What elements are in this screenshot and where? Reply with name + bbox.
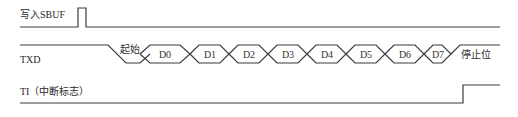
signal-label-sbuf: 写入SBUF (20, 9, 65, 20)
bit-label-d3: D3 (276, 49, 300, 60)
ti-waveform (20, 85, 500, 103)
bit-label-d2: D2 (237, 49, 261, 60)
bit-label-d5: D5 (354, 49, 378, 60)
signal-label-txd: TXD (20, 54, 41, 65)
bit-label-d6: D6 (393, 49, 417, 60)
stop-bit-label: 停止位 (461, 49, 491, 60)
start-bit-label: 起始 (120, 44, 140, 55)
bit-label-d0: D0 (153, 49, 177, 60)
sbuf-waveform (20, 8, 500, 27)
bit-label-d7: D7 (426, 49, 450, 60)
signal-label-ti: TI（中断标志） (20, 86, 89, 97)
bit-label-d1: D1 (198, 49, 222, 60)
bit-label-d4: D4 (315, 49, 339, 60)
